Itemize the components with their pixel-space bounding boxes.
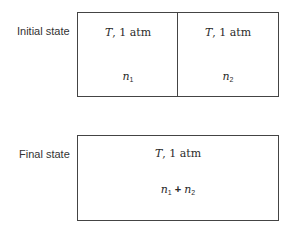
initial-state-container: T, 1 atm n1 T, 1 atm n2 <box>77 12 279 97</box>
final-state-label: Final state <box>19 148 70 160</box>
left-moles: n1 <box>78 70 178 83</box>
right-moles: n2 <box>178 70 278 83</box>
left-compartment: T, 1 atm n1 <box>78 13 178 96</box>
right-condition: T, 1 atm <box>178 26 278 39</box>
left-condition: T, 1 atm <box>78 26 178 39</box>
final-moles: n1 + n2 <box>78 183 278 196</box>
initial-state-label: Initial state <box>17 25 70 37</box>
final-state-container: T, 1 atm n1 + n2 <box>77 135 279 221</box>
right-compartment: T, 1 atm n2 <box>178 13 278 96</box>
final-condition: T, 1 atm <box>78 147 278 160</box>
